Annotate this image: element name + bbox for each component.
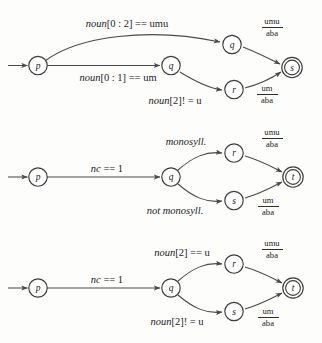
- diagram-1: p q q r s noun[0 : 2] == umu: [8, 16, 302, 106]
- figure-root: p q q r s noun[0 : 2] == umu: [0, 0, 322, 343]
- edge-d3-r-to-t: [245, 267, 282, 283]
- edge-label-d3-main: nc == 1: [91, 274, 123, 285]
- state-d2-s: s: [225, 191, 243, 209]
- edge-label-d1-mid: noun[0 : 1] == um: [79, 72, 156, 83]
- state-label-d1-s: s: [290, 63, 294, 73]
- diagram-3: p q r s t nc == 1: [8, 238, 303, 328]
- edge-d2-q-to-s: [178, 184, 222, 201]
- fraction-d1-bottom: um aba: [257, 83, 278, 105]
- edge-d1-qmain-to-r: [180, 72, 222, 90]
- edge-d2-r-to-t: [245, 156, 282, 172]
- state-d1-r: r: [225, 80, 243, 98]
- fraction-d3-top-numerator: umu: [264, 238, 280, 248]
- state-d3-q: q: [162, 279, 180, 297]
- edge-d1-p-to-qupper: [45, 35, 220, 61]
- fraction-d2-top-denominator: aba: [266, 139, 278, 149]
- fraction-d2-bottom: um aba: [258, 195, 279, 217]
- fraction-d1-bottom-numerator: um: [262, 83, 273, 93]
- state-d3-r: r: [225, 255, 243, 273]
- state-label-d3-t: t: [292, 283, 295, 293]
- state-label-d2-q: q: [169, 172, 174, 182]
- fraction-d1-top-numerator: umu: [264, 16, 280, 26]
- fraction-d3-bottom-denominator: aba: [262, 318, 274, 328]
- fraction-d3-bottom: um aba: [258, 306, 279, 328]
- fraction-d2-top: umu aba: [262, 127, 283, 149]
- edge-d3-q-to-s: [178, 295, 222, 312]
- state-label-d3-s: s: [232, 307, 236, 317]
- state-label-d3-p: p: [35, 283, 41, 293]
- state-d3-s: s: [225, 302, 243, 320]
- fraction-d1-top-denominator: aba: [266, 28, 278, 38]
- edge-label-d1-top: noun[0 : 2] == umu: [86, 18, 169, 29]
- fraction-d2-top-numerator: umu: [264, 127, 280, 137]
- state-d2-q: q: [162, 168, 180, 186]
- edge-d2-q-to-r: [178, 153, 222, 170]
- state-d2-p: p: [29, 168, 47, 186]
- fraction-d3-top-denominator: aba: [266, 250, 278, 260]
- diagram-2: p q r s t nc == 1 monosyll: [8, 127, 303, 217]
- fraction-d1-top: umu aba: [262, 16, 283, 38]
- state-d3-t-accepting: t: [283, 278, 303, 298]
- state-d3-p: p: [29, 279, 47, 297]
- state-label-d3-r: r: [232, 259, 236, 269]
- edge-label-d2-top: monosyll.: [166, 136, 207, 147]
- fraction-d3-bottom-numerator: um: [263, 306, 274, 316]
- state-d1-s-accepting: s: [282, 57, 302, 77]
- state-label-d1-q-upper: q: [230, 40, 235, 50]
- edge-label-d2-main: nc == 1: [91, 163, 123, 174]
- edge-label-d3-top: noun[2] == u: [154, 247, 210, 258]
- state-label-d2-s: s: [232, 196, 236, 206]
- state-label-d1-p: p: [35, 61, 41, 71]
- state-label-d2-p: p: [35, 172, 41, 182]
- state-d1-q-main: q: [162, 56, 180, 74]
- fraction-d2-bottom-numerator: um: [263, 195, 274, 205]
- state-label-d1-r: r: [232, 85, 236, 95]
- state-d1-p: p: [29, 56, 47, 74]
- state-label-d1-q-main: q: [169, 61, 174, 71]
- state-d2-t-accepting: t: [283, 167, 303, 187]
- edge-label-d3-bottom: noun[2]! = u: [150, 316, 204, 327]
- state-label-d2-r: r: [232, 148, 236, 158]
- fraction-d1-bottom-denominator: aba: [261, 95, 273, 105]
- state-d1-q-upper: q: [223, 35, 241, 53]
- state-label-d2-t: t: [292, 172, 295, 182]
- edge-d3-q-to-r: [178, 264, 222, 281]
- edge-d1-qupper-to-s: [243, 47, 280, 64]
- state-label-d3-q: q: [169, 283, 174, 293]
- edge-label-d1-low: noun[2]! = u: [148, 95, 202, 106]
- fsm-diagrams-canvas: p q q r s noun[0 : 2] == umu: [0, 0, 322, 343]
- fraction-d3-top: umu aba: [262, 238, 283, 260]
- fraction-d2-bottom-denominator: aba: [262, 207, 274, 217]
- state-d2-r: r: [225, 144, 243, 162]
- edge-label-d2-bottom: not monosyll.: [147, 205, 204, 216]
